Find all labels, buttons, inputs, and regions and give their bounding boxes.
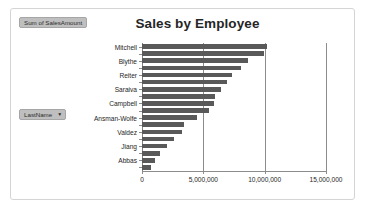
- bar-row: [142, 151, 326, 156]
- bar-row: [142, 144, 326, 149]
- category-tick: [139, 167, 142, 168]
- category-label: Jiang: [27, 143, 137, 150]
- bar[interactable]: [142, 115, 197, 120]
- bar-row: [142, 58, 326, 63]
- bar[interactable]: [142, 87, 221, 92]
- value-axis-tick-label: 10,000,000: [248, 176, 281, 183]
- value-axis-tick-label: 15,000,000: [309, 176, 342, 183]
- value-axis-tick: [265, 171, 266, 174]
- bar[interactable]: [142, 122, 184, 127]
- bar-row: [142, 165, 326, 170]
- category-tick: [139, 111, 142, 112]
- bar-row: [142, 66, 326, 71]
- bar[interactable]: [142, 73, 232, 78]
- bar[interactable]: [142, 44, 267, 49]
- category-label: Reiter: [27, 72, 137, 79]
- bar[interactable]: [142, 144, 167, 149]
- bar[interactable]: [142, 58, 248, 63]
- category-label: Valdez: [27, 128, 137, 135]
- category-label: Campbell: [27, 100, 137, 107]
- bar[interactable]: [142, 94, 215, 99]
- plot-area: [142, 43, 326, 171]
- bar-row: [142, 158, 326, 163]
- category-label: Abbas: [27, 157, 137, 164]
- category-tick: [139, 68, 142, 69]
- category-label: Mitchell: [27, 43, 137, 50]
- value-axis-line: [142, 171, 326, 172]
- category-tick: [139, 82, 142, 83]
- bar[interactable]: [142, 130, 182, 135]
- category-tick: [139, 153, 142, 154]
- bar[interactable]: [142, 51, 264, 56]
- value-axis-tick-label: 5,000,000: [189, 176, 218, 183]
- bar[interactable]: [142, 66, 241, 71]
- category-tick: [139, 75, 142, 76]
- value-axis-tick: [326, 171, 327, 174]
- bar-row: [142, 101, 326, 106]
- bar-row: [142, 51, 326, 56]
- plot-wrapper: MitchellBlytheReiterSaraivaCampbellAnsma…: [11, 9, 354, 199]
- value-axis-labels: 05,000,00010,000,00015,000,000: [11, 176, 354, 188]
- category-axis-labels: MitchellBlytheReiterSaraivaCampbellAnsma…: [25, 9, 137, 199]
- gridline-3: [326, 43, 327, 171]
- bar[interactable]: [142, 137, 174, 142]
- category-tick: [139, 96, 142, 97]
- bar-row: [142, 73, 326, 78]
- category-tick: [139, 103, 142, 104]
- category-tick: [139, 47, 142, 48]
- value-axis-tick-label: 0: [140, 176, 144, 183]
- value-axis-tick: [203, 171, 204, 174]
- bar-row: [142, 80, 326, 85]
- category-tick: [139, 125, 142, 126]
- category-tick: [139, 139, 142, 140]
- bar[interactable]: [142, 158, 155, 163]
- bar-row: [142, 94, 326, 99]
- category-label: Ansman-Wolfe: [27, 114, 137, 121]
- category-label: Blythe: [27, 57, 137, 64]
- pivotchart-frame: Sum of SalesAmount LastName ▼ Sales by E…: [10, 8, 355, 200]
- bar-row: [142, 137, 326, 142]
- category-tick: [139, 146, 142, 147]
- bar-row: [142, 44, 326, 49]
- category-tick: [139, 89, 142, 90]
- bar[interactable]: [142, 80, 227, 85]
- category-tick: [139, 118, 142, 119]
- bar[interactable]: [142, 101, 214, 106]
- bar-row: [142, 87, 326, 92]
- bar[interactable]: [142, 165, 151, 170]
- bar-row: [142, 108, 326, 113]
- bar-row: [142, 122, 326, 127]
- bar[interactable]: [142, 151, 160, 156]
- category-tick: [139, 132, 142, 133]
- category-tick: [139, 54, 142, 55]
- category-tick: [139, 61, 142, 62]
- category-label: Saraiva: [27, 86, 137, 93]
- category-tick: [139, 160, 142, 161]
- bar[interactable]: [142, 108, 209, 113]
- bar-row: [142, 115, 326, 120]
- value-axis-tick: [142, 171, 143, 174]
- bar-row: [142, 130, 326, 135]
